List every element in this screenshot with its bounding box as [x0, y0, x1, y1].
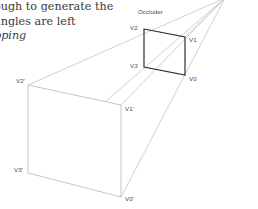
label-v3: V3 [130, 62, 138, 69]
ray-v1 [121, 0, 225, 105]
label-v3-prime: V3' [14, 166, 23, 173]
projected-face [28, 85, 121, 197]
edge-v2p-v1p [28, 85, 121, 105]
label-v0-prime: V0' [125, 195, 134, 202]
label-v2-prime: V2' [16, 77, 25, 84]
projection-rays [28, 0, 225, 197]
shadow-volume-diagram: Occluder V2 V1 V3 V0 V2' V1' V3' V0' [0, 0, 258, 209]
label-v0: V0 [189, 75, 197, 82]
occluder-label: Occluder [138, 8, 163, 15]
edge-v0p-v3p [28, 173, 121, 197]
label-v1: V1 [189, 36, 197, 43]
label-v2: V2 [130, 24, 138, 31]
occluder-quad [144, 29, 185, 75]
label-v1-prime: V1' [125, 105, 134, 112]
